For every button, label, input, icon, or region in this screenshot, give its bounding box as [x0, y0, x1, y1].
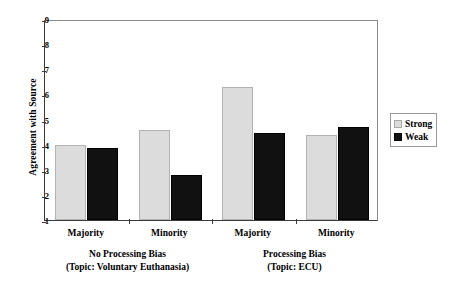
y-axis-tick-mark — [42, 222, 46, 223]
legend-label-strong: Strong — [405, 119, 432, 129]
bar-strong-majority-2 — [222, 87, 253, 220]
x-axis-category-label: Minority — [286, 228, 386, 238]
bar-weak-majority-0 — [87, 148, 118, 220]
bar-weak-majority-2 — [254, 133, 285, 220]
y-axis-tick-mark — [42, 197, 46, 198]
y-axis-tick-mark — [42, 172, 46, 173]
legend-swatch-strong-icon — [394, 120, 402, 128]
bar-strong-minority-1 — [139, 130, 170, 220]
y-axis-tick-mark — [42, 96, 46, 97]
plot-area: 123456789 — [44, 20, 378, 221]
group-caption-line2: (Topic: ECU) — [185, 261, 405, 274]
bar-weak-minority-1 — [171, 175, 202, 220]
bar-chart-figure: Agreement with Source 123456789 Majority… — [0, 0, 456, 285]
y-axis-tick-mark — [42, 46, 46, 47]
y-axis-tick-mark — [42, 71, 46, 72]
legend-item: Weak — [394, 130, 432, 143]
y-axis-tick-mark — [42, 122, 46, 123]
x-axis-separator-tick — [212, 219, 213, 224]
bar-strong-minority-3 — [306, 135, 337, 220]
bar-strong-majority-0 — [55, 145, 86, 220]
legend: Strong Weak — [390, 113, 437, 147]
x-axis-separator-tick — [296, 219, 297, 224]
bar-weak-minority-3 — [338, 127, 369, 220]
x-axis-separator-tick — [129, 219, 130, 224]
legend-swatch-weak-icon — [394, 133, 402, 141]
legend-label-weak: Weak — [405, 132, 428, 142]
y-axis-tick-mark — [42, 21, 46, 22]
group-caption: Processing Bias(Topic: ECU) — [185, 248, 405, 274]
y-axis-tick-mark — [42, 147, 46, 148]
group-caption-line1: Processing Bias — [185, 248, 405, 261]
legend-item: Strong — [394, 117, 432, 130]
